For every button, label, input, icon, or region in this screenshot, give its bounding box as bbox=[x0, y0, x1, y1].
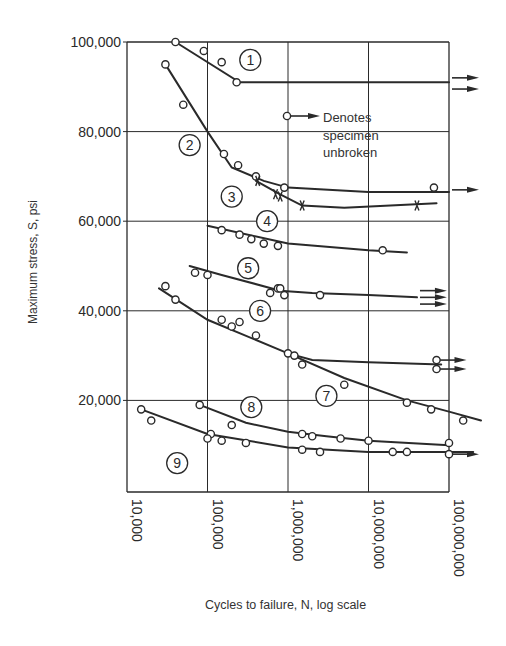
data-point bbox=[138, 406, 145, 413]
data-point bbox=[299, 446, 306, 453]
series-curve-6 bbox=[159, 288, 441, 364]
series-label-6: 6 bbox=[256, 303, 264, 319]
data-point bbox=[196, 401, 203, 408]
data-point bbox=[341, 381, 348, 388]
legend-unbroken-icon bbox=[282, 110, 324, 122]
data-point bbox=[445, 439, 452, 446]
data-point bbox=[162, 283, 169, 290]
data-point bbox=[291, 352, 298, 359]
data-point bbox=[403, 448, 410, 455]
data-point bbox=[172, 296, 179, 303]
data-point bbox=[218, 316, 225, 323]
data-point bbox=[430, 184, 437, 191]
data-point bbox=[228, 323, 235, 330]
series-label-1: 1 bbox=[246, 52, 254, 68]
series-label-9: 9 bbox=[173, 455, 181, 471]
data-point bbox=[235, 162, 242, 169]
data-point bbox=[191, 269, 198, 276]
data-point bbox=[260, 240, 267, 247]
data-point bbox=[365, 437, 372, 444]
unbroken-arrow-icon bbox=[467, 75, 479, 81]
legend: Denotes specimen unbroken bbox=[323, 109, 379, 162]
series-curve-9 bbox=[141, 409, 473, 452]
data-point bbox=[281, 292, 288, 299]
data-point bbox=[233, 79, 240, 86]
data-point bbox=[180, 101, 187, 108]
legend-line-2: specimen bbox=[323, 127, 379, 145]
data-point-x bbox=[278, 192, 282, 202]
data-point bbox=[204, 271, 211, 278]
data-point bbox=[316, 448, 323, 455]
series-curve-1 bbox=[175, 42, 449, 82]
unbroken-arrow-icon bbox=[435, 294, 447, 300]
unbroken-arrow-icon bbox=[455, 357, 467, 363]
data-point bbox=[428, 406, 435, 413]
series-label-7: 7 bbox=[323, 388, 331, 404]
data-point bbox=[277, 285, 284, 292]
series-label-4: 4 bbox=[263, 213, 271, 229]
data-point bbox=[433, 365, 440, 372]
data-point bbox=[218, 227, 225, 234]
x-axis-ticks: 10,000100,0001,000,00010,000,000100,000,… bbox=[129, 499, 467, 577]
x-tick-label: 10,000 bbox=[129, 499, 145, 542]
data-point bbox=[274, 242, 281, 249]
data-point bbox=[281, 184, 288, 191]
data-point bbox=[389, 448, 396, 455]
data-point bbox=[445, 451, 452, 458]
chart-svg: 20,00040,00060,00080,000100,000 10,00010… bbox=[0, 0, 506, 646]
x-tick-label: 100,000 bbox=[210, 499, 226, 550]
data-point bbox=[252, 332, 259, 339]
data-point bbox=[299, 430, 306, 437]
series-curve-5 bbox=[190, 266, 417, 297]
y-tick-label: 40,000 bbox=[78, 303, 121, 319]
data-point bbox=[236, 231, 243, 238]
x-tick-label: 10,000,000 bbox=[371, 499, 387, 569]
y-axis-label: Maximum stress, S, psi bbox=[26, 200, 40, 324]
data-point bbox=[218, 437, 225, 444]
series-label-3: 3 bbox=[228, 189, 236, 205]
y-tick-label: 20,000 bbox=[78, 392, 121, 408]
data-point bbox=[460, 417, 467, 424]
data-point bbox=[379, 247, 386, 254]
data-point bbox=[220, 150, 227, 157]
series-label-8: 8 bbox=[247, 399, 255, 415]
unbroken-arrow-icon bbox=[435, 288, 447, 294]
data-point bbox=[248, 236, 255, 243]
series-label-2: 2 bbox=[186, 137, 194, 153]
data-point-x bbox=[415, 201, 419, 211]
data-point bbox=[337, 435, 344, 442]
x-tick-label: 100,000,000 bbox=[451, 499, 467, 577]
data-point bbox=[316, 292, 323, 299]
unbroken-arrow-icon bbox=[467, 187, 479, 193]
y-tick-label: 60,000 bbox=[78, 213, 121, 229]
y-axis-ticks: 20,00040,00060,00080,000100,000 bbox=[70, 34, 127, 408]
data-point bbox=[228, 421, 235, 428]
legend-line-3: unbroken bbox=[323, 144, 379, 162]
y-tick-label: 80,000 bbox=[78, 124, 121, 140]
data-point bbox=[200, 47, 207, 54]
data-point bbox=[148, 417, 155, 424]
data-point bbox=[267, 289, 274, 296]
x-axis-label: Cycles to failure, N, log scale bbox=[0, 598, 506, 612]
x-tick-label: 1,000,000 bbox=[290, 499, 306, 561]
unbroken-arrow-icon bbox=[435, 301, 447, 307]
data-point bbox=[162, 61, 169, 68]
series-curves bbox=[141, 42, 481, 452]
series-label-5: 5 bbox=[244, 260, 252, 276]
y-tick-label: 100,000 bbox=[70, 34, 121, 50]
data-point bbox=[433, 356, 440, 363]
data-point bbox=[204, 435, 211, 442]
unbroken-arrow-icon bbox=[455, 366, 467, 372]
legend-line-1: Denotes bbox=[323, 109, 379, 127]
data-point bbox=[172, 38, 179, 45]
data-point bbox=[299, 361, 306, 368]
data-point bbox=[403, 399, 410, 406]
data-point bbox=[218, 59, 225, 66]
data-point bbox=[242, 439, 249, 446]
data-point bbox=[309, 433, 316, 440]
series-curve-4 bbox=[208, 226, 407, 253]
data-point bbox=[236, 318, 243, 325]
unbroken-arrow-icon bbox=[467, 86, 479, 92]
